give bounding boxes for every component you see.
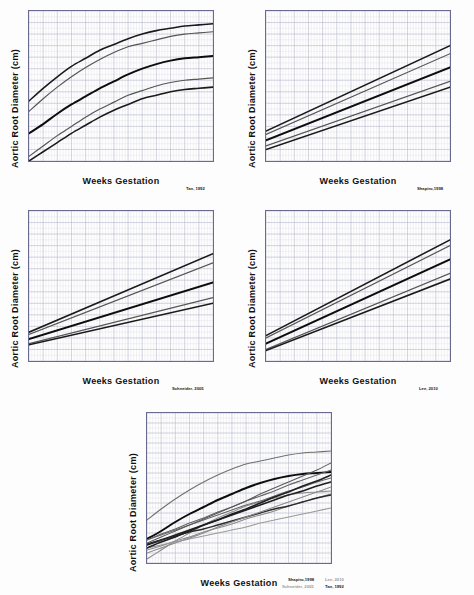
x-tick-label: 36	[183, 161, 189, 162]
y-tick-label: 1.2	[28, 20, 29, 26]
x-tick-label: 22	[201, 563, 207, 564]
percentile-label-01: 01	[450, 86, 451, 91]
percentile-label-05: 05	[331, 490, 332, 495]
percentile-label-50: 50	[450, 258, 451, 263]
series-line-95	[266, 54, 450, 135]
y-tick-label: 0.6	[28, 290, 29, 296]
x-tick-label: 26	[112, 361, 118, 362]
y-tick-label: 0.9	[146, 471, 147, 477]
y-tick-label: 0.7	[28, 278, 29, 284]
citation-tan: Tan, 1992	[186, 186, 205, 191]
y-tick-label: 1.4	[146, 420, 147, 426]
x-tick-label: 32	[155, 161, 161, 162]
series-line-05	[266, 81, 450, 146]
x-tick-label: 38	[435, 161, 441, 162]
x-axis-title: Weeks Gestation	[265, 176, 451, 186]
x-tick-label: 18	[55, 361, 61, 362]
y-tick-label: 1.1	[265, 31, 266, 37]
y-tick-label: 0.8	[146, 481, 147, 487]
citation-shapiro: Shapiro,1998	[417, 186, 443, 191]
series-line-05	[266, 273, 450, 349]
percentile-label-95: 95	[213, 261, 214, 266]
x-tick-label: 34	[169, 161, 175, 162]
y-axis-title: Aortic Root Diameter (cm)	[247, 49, 257, 168]
x-tick-label: 24	[335, 161, 341, 162]
plot-area-lee: 00.10.20.30.40.50.60.70.80.911.11.21.314…	[265, 210, 451, 362]
y-tick-label: 0.5	[265, 302, 266, 308]
y-tick-label: 0.8	[265, 66, 266, 72]
y-tick-label: 0.7	[146, 491, 147, 497]
y-tick-label: 1.2	[265, 20, 266, 26]
y-tick-label: 0.2	[265, 137, 266, 143]
percentile-label-50: 50	[213, 54, 214, 59]
y-tick-label: 0.4	[146, 521, 147, 527]
x-tick-label: 30	[378, 361, 384, 362]
y-tick-label: 0.6	[265, 90, 266, 96]
plot-area-tan: 00.10.20.30.40.50.60.70.80.911.11.21.314…	[28, 10, 214, 162]
x-tick-label: 18	[173, 563, 179, 564]
x-tick-label: 24	[98, 161, 104, 162]
x-axis-title: Weeks Gestation	[28, 176, 214, 186]
x-tick-label: 32	[392, 161, 398, 162]
y-tick-label: 0.2	[265, 337, 266, 343]
citation-schneider: Schneider, 2005	[172, 386, 204, 391]
y-tick-label: 0.3	[146, 532, 147, 538]
x-tick-label: 34	[406, 161, 412, 162]
series-line-50	[266, 259, 450, 343]
y-tick-label: 1.1	[146, 451, 147, 457]
percentile-label-95: 95	[450, 244, 451, 249]
y-tick-label: 1.3	[265, 210, 266, 214]
chart-panel-tan: Aortic Root Diameter (cm) 00.10.20.30.40…	[0, 0, 237, 198]
y-tick-label: 1.2	[28, 220, 29, 226]
percentile-label-05: 05	[213, 296, 214, 301]
x-tick-label: 16	[40, 161, 46, 162]
x-tick-label: 28	[363, 361, 369, 362]
x-tick-label: 28	[244, 563, 250, 564]
y-tick-label: 1.3	[265, 10, 266, 14]
y-tick-label: 0.5	[28, 302, 29, 308]
y-tick-label: 1.3	[28, 10, 29, 14]
y-tick-label: 0.6	[265, 290, 266, 296]
x-tick-label: 36	[183, 361, 189, 362]
y-tick-label: 0.9	[28, 55, 29, 61]
x-tick-label: 26	[112, 161, 118, 162]
y-tick-label: 0.7	[28, 78, 29, 84]
x-tick-label: 16	[277, 161, 283, 162]
y-tick-label: 0.1	[265, 348, 266, 354]
y-tick-label: 0.1	[265, 148, 266, 154]
y-axis-title: Aortic Root Diameter (cm)	[247, 249, 257, 368]
series-line-99	[266, 240, 450, 336]
percentile-label-99: 99	[450, 44, 451, 49]
x-tick-label: 38	[198, 161, 204, 162]
curves-tan	[29, 11, 213, 161]
y-tick-label: 0.8	[28, 266, 29, 272]
y-tick-label: 0.9	[28, 255, 29, 261]
curves-shapiro	[266, 11, 450, 161]
x-tick-label: 14	[28, 361, 32, 362]
y-tick-label: 1	[146, 461, 147, 467]
x-tick-label: 38	[435, 361, 441, 362]
x-tick-label: 22	[83, 361, 89, 362]
x-tick-label: 34	[287, 563, 293, 564]
y-tick-label: 0.4	[265, 313, 266, 319]
percentile-label-01: 01	[450, 277, 451, 282]
x-tick-label: 30	[141, 361, 147, 362]
x-tick-label: 20	[69, 361, 75, 362]
x-tick-label: 24	[216, 563, 222, 564]
series-line-schneider-05	[147, 508, 331, 548]
x-tick-label: 32	[273, 563, 279, 564]
y-tick-label: 1.1	[28, 231, 29, 237]
x-tick-label: 24	[98, 361, 104, 362]
x-tick-label: 30	[378, 161, 384, 162]
y-tick-label: 0.1	[28, 348, 29, 354]
y-tick-label: 1	[265, 243, 266, 249]
y-tick-label: 0.8	[265, 266, 266, 272]
x-tick-label: 40	[330, 563, 332, 564]
y-tick-label: 0.2	[28, 337, 29, 343]
series-line-50	[266, 68, 450, 141]
citation-tan-legend: Tan, 1992	[325, 584, 344, 589]
chart-panel-schneider: Aortic Root Diameter (cm) 00.10.20.30.40…	[0, 198, 237, 398]
percentile-label-50: 50	[450, 66, 451, 71]
x-tick-label: 16	[158, 563, 164, 564]
series-line-lee-95	[147, 463, 331, 543]
